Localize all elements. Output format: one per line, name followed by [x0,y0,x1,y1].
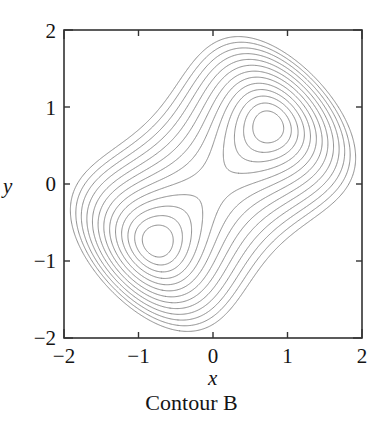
plot-frame [64,30,362,338]
x-axis-label: x [208,366,217,391]
y-axis-label: y [3,174,12,199]
contour-level-0 [142,225,173,257]
contour-figure: −2 −1 0 1 2 2 1 0 −1 −2 x y Contour B [0,0,383,430]
contour-level-4 [116,83,311,284]
y-tick-label-2: 2 [24,21,56,42]
x-tick-label--1: −1 [127,346,149,367]
x-tick-label-1: 1 [282,346,293,367]
x-tick-label-2: 2 [357,346,368,367]
contour-level-3 [122,195,203,279]
contour-level-11 [76,42,350,326]
x-tick-label--2: −2 [53,346,75,367]
contour-level-0 [253,111,284,143]
figure-caption: Contour B [0,390,383,416]
contour-level-5 [110,77,317,291]
contour-level-6 [104,71,322,297]
axis-frame [64,30,362,338]
contour-level-8 [92,59,333,308]
y-tick-label-0: 0 [24,174,56,195]
contour-level-3 [223,90,304,174]
x-tick-label-0: 0 [208,346,219,367]
y-tick-label--1: −1 [19,251,56,272]
contour-lines-group [70,37,355,332]
y-tick-label-1: 1 [24,98,56,119]
contour-level-9 [87,54,339,315]
y-tick-label--2: −2 [19,328,56,349]
